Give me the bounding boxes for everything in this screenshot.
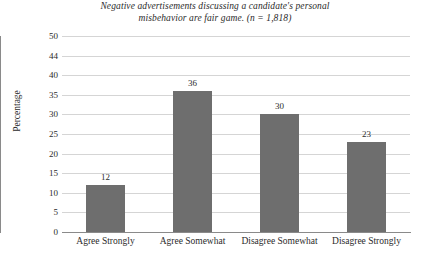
y-axis-tick-label: 0 — [24, 227, 58, 237]
y-axis-line — [0, 36, 1, 233]
bar-value-label: 23 — [342, 129, 392, 139]
chart-title-line-1: Negative advertisements discussing a can… — [60, 1, 370, 13]
y-axis-title: Percentage — [12, 71, 22, 151]
chart-title-line-2: misbehavior are fair game. (n = 1,818) — [60, 13, 370, 25]
x-axis-category-label: Agree Somewhat — [143, 236, 243, 246]
y-axis-tick-label: 44 — [24, 51, 58, 61]
y-axis-tick-label: 35 — [24, 90, 58, 100]
gridline — [62, 75, 410, 76]
x-axis-category-label: Agree Strongly — [56, 236, 156, 246]
y-axis-tick-label: 20 — [24, 149, 58, 159]
x-axis-line — [62, 232, 411, 233]
bar — [86, 185, 125, 232]
y-axis-tick-label: 40 — [24, 70, 58, 80]
bar-value-label: 12 — [81, 172, 131, 182]
plot-area: 12363023 — [62, 36, 410, 232]
bar-value-label: 30 — [255, 101, 305, 111]
bar — [173, 91, 212, 232]
y-axis-tick-label: 5 — [24, 207, 58, 217]
bar — [260, 114, 299, 232]
y-axis-tick-labels: 05101520253035404450 — [22, 36, 58, 232]
bar-chart-figure: Negative advertisements discussing a can… — [0, 0, 430, 269]
gridline — [62, 56, 410, 57]
y-axis-tick-label: 10 — [24, 188, 58, 198]
x-axis-category-label: Disagree Strongly — [317, 236, 417, 246]
gridline — [62, 36, 410, 37]
y-axis-tick-label: 25 — [24, 129, 58, 139]
chart-title: Negative advertisements discussing a can… — [60, 1, 370, 24]
bar-value-label: 36 — [168, 78, 218, 88]
bar — [347, 142, 386, 232]
x-axis-category-label: Disagree Somewhat — [230, 236, 330, 246]
y-axis-tick-label: 15 — [24, 168, 58, 178]
y-axis-tick-label: 50 — [24, 31, 58, 41]
y-axis-tick-label: 30 — [24, 109, 58, 119]
gridline — [62, 95, 410, 96]
x-axis-category-labels: Agree StronglyAgree SomewhatDisagree Som… — [62, 236, 411, 252]
gridline — [62, 114, 410, 115]
